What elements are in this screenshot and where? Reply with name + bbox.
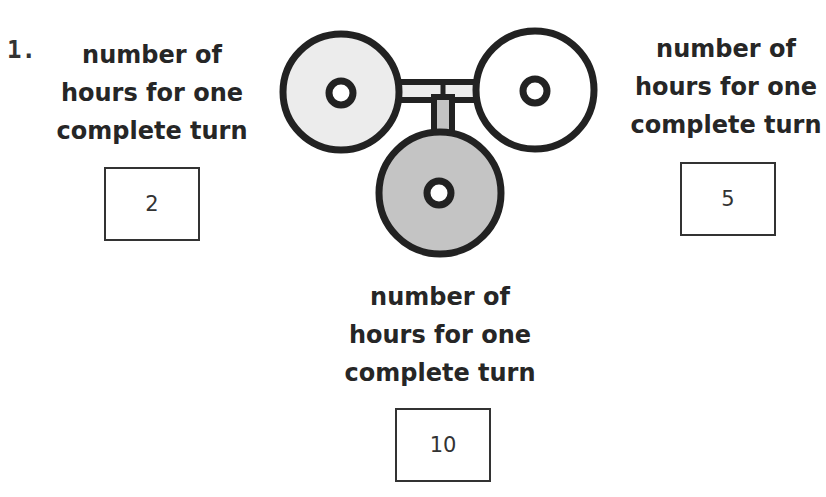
connector-bars [395,82,480,135]
wheel-diagram [0,0,826,497]
left-wheel [283,34,399,150]
bottom-wheel [379,132,501,254]
right-wheel [476,31,594,149]
